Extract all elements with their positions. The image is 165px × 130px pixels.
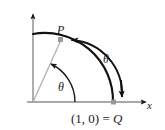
- point-p-label: P: [57, 24, 64, 36]
- unit-circle-figure: P θ θ x (1, 0) = Q: [0, 0, 165, 130]
- point-q-coordinates: (1, 0): [71, 111, 99, 126]
- theta-outer-label: θ: [103, 53, 109, 65]
- point-q-equals-sign: =: [99, 111, 113, 126]
- point-p-marker: [58, 37, 63, 42]
- x-axis-label: x: [147, 100, 152, 111]
- point-q-marker: [111, 100, 116, 105]
- point-q-label: (1, 0) = Q: [71, 112, 122, 125]
- radius-segment-op: [33, 40, 61, 102]
- point-q-name: Q: [113, 111, 122, 126]
- theta-inner-label: θ: [58, 81, 64, 93]
- arrow-drop-to-axis: [121, 80, 122, 97]
- theta-direction-arrow: [72, 40, 122, 96]
- unit-circle-arc: [33, 33, 113, 102]
